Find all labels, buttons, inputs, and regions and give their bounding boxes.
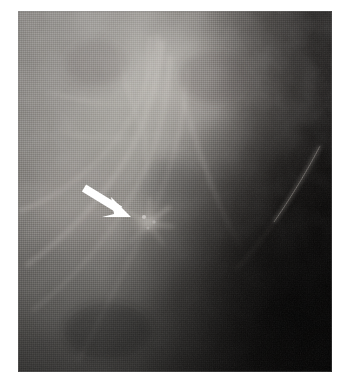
figure-root: [0, 0, 350, 386]
film-grain: [18, 11, 332, 372]
mammogram-image: [18, 11, 332, 372]
figure-caption: [18, 374, 332, 384]
radiograph-canvas: [18, 11, 332, 372]
